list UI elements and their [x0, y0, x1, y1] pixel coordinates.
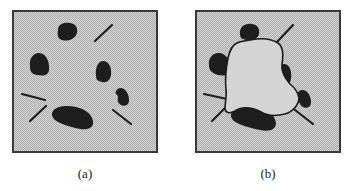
- caption-a: (a): [55, 166, 115, 182]
- caption-b: (b): [238, 166, 298, 182]
- panel-b-image: [195, 10, 341, 153]
- panel-a-image: [12, 10, 158, 153]
- panel-a-background: [13, 11, 157, 152]
- blob-center-right: [96, 61, 111, 82]
- blob-top: [240, 24, 259, 40]
